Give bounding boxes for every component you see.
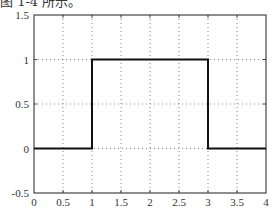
x-tick-label: 2.5 [172,196,186,208]
x-tick-label: 0.5 [56,196,70,208]
x-tick-label: 2 [147,196,153,208]
x-tick-label: 1.5 [114,196,128,208]
y-tick-label: 1.5 [15,9,29,21]
x-axis-labels: 00.511.522.533.54 [31,196,269,208]
x-tick-label: 1 [89,196,95,208]
y-tick-label: -0.5 [12,187,30,199]
pulse-chart: 00.511.522.533.54 -0.500.511.5 [0,0,280,212]
x-tick-label: 3.5 [230,196,244,208]
y-axis-labels: -0.500.511.5 [12,9,30,199]
x-tick-label: 3 [205,196,211,208]
y-tick-label: 0.5 [15,98,29,110]
x-tick-label: 0 [31,196,37,208]
x-tick-label: 4 [263,196,269,208]
grid-lines [34,15,266,193]
y-tick-label: 1 [24,54,30,66]
y-tick-label: 0 [24,143,30,155]
